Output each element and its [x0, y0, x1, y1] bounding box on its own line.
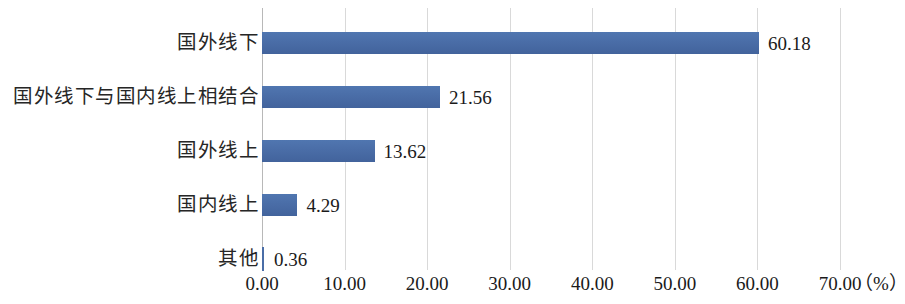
x-tick-label: 30.00 [488, 272, 531, 297]
category-label: 国外线下 [177, 33, 259, 53]
x-tick-label: 10.00 [323, 272, 366, 297]
bar[interactable] [262, 140, 375, 162]
bar-row: 国内线上 4.29 [262, 178, 852, 232]
bar[interactable] [262, 86, 440, 108]
x-tick-label: 20.00 [406, 272, 449, 297]
value-label: 4.29 [306, 196, 339, 215]
x-axis: 0.00 10.00 20.00 30.00 40.00 50.00 60.00… [262, 272, 852, 304]
value-label: 21.56 [449, 88, 492, 107]
bar-row: 国外线下 60.18 [262, 16, 852, 70]
x-tick-label: 50.00 [654, 272, 697, 297]
bar-row: 国外线下与国内线上相结合 21.56 [262, 70, 852, 124]
category-label: 国外线下与国内线上相结合 [13, 87, 259, 107]
category-label: 国外线上 [177, 141, 259, 161]
horizontal-bar-chart: 国外线下 60.18 国外线下与国内线上相结合 21.56 国外线上 13.62… [0, 0, 905, 304]
x-tick-label: 40.00 [571, 272, 614, 297]
bar[interactable] [262, 32, 759, 54]
category-label: 其他 [218, 249, 259, 269]
value-label: 13.62 [384, 142, 427, 161]
value-label: 0.36 [274, 250, 307, 269]
value-label: 60.18 [768, 34, 811, 53]
bar-row: 国外线上 13.62 [262, 124, 852, 178]
bar[interactable] [262, 194, 297, 216]
x-tick-label: 0.00 [245, 272, 278, 297]
x-axis-unit-label: （%） [854, 272, 905, 297]
bar[interactable] [262, 247, 264, 271]
plot-area: 国外线下 60.18 国外线下与国内线上相结合 21.56 国外线上 13.62… [262, 8, 852, 270]
category-label: 国内线上 [177, 195, 259, 215]
x-tick-label: 60.00 [736, 272, 779, 297]
